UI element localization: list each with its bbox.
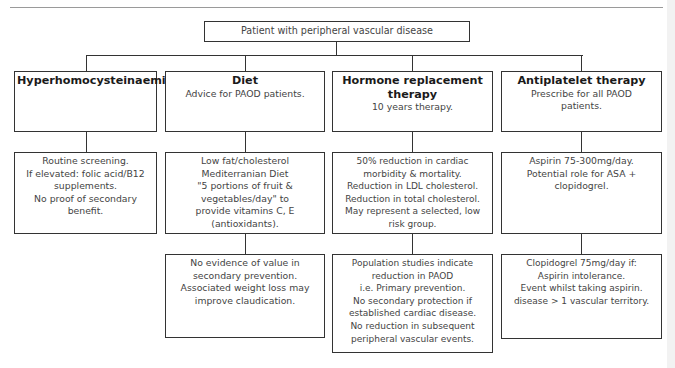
detail-line: If elevated: folic acid/B12 bbox=[17, 168, 154, 181]
detail-line: clopidogrel. bbox=[504, 180, 659, 193]
detail-line: Mediterranian Diet bbox=[168, 168, 322, 181]
header-title: Antiplatelet therapy bbox=[504, 74, 659, 88]
header-antiplatelet-therapy: Antiplatelet therapy Prescribe for all P… bbox=[501, 71, 662, 132]
evidence-line: Associated weight loss may bbox=[168, 282, 322, 295]
detail-hormone-replacement-therapy: 50% reduction in cardiac morbidity & mor… bbox=[332, 152, 493, 234]
evidence-hormone-replacement-therapy: Population studies indicate reduction in… bbox=[332, 254, 493, 353]
top-rule-divider bbox=[10, 7, 663, 8]
header-subtitle: patients. bbox=[504, 100, 659, 113]
header-diet: Diet Advice for PAOD patients. bbox=[165, 71, 325, 132]
header-title-line: therapy bbox=[335, 88, 490, 102]
root-node: Patient with peripheral vascular disease bbox=[204, 21, 470, 42]
connector bbox=[581, 131, 582, 152]
connector bbox=[86, 55, 87, 71]
detail-line: Routine screening. bbox=[17, 155, 154, 168]
detail-line-text: If elevated: folic acid/B12 bbox=[26, 168, 144, 179]
root-label: Patient with peripheral vascular disease bbox=[241, 25, 433, 36]
detail-line: "5 portions of fruit & bbox=[168, 180, 322, 193]
header-title-line: Hormone replacement bbox=[335, 74, 490, 88]
evidence-line: reduction in PAOD bbox=[333, 270, 492, 283]
detail-line: morbidity & mortality. bbox=[333, 168, 492, 181]
connector bbox=[245, 55, 246, 71]
detail-line: May represent a selected, low bbox=[333, 205, 492, 218]
evidence-line: improve claudication. bbox=[168, 295, 322, 308]
evidence-line: i.e. Primary prevention. bbox=[333, 282, 492, 295]
connector bbox=[412, 55, 413, 71]
evidence-line: Clopidogrel 75mg/day if: bbox=[502, 257, 661, 270]
detail-line: No proof of secondary bbox=[17, 193, 154, 206]
header-subtitle: Advice for PAOD patients. bbox=[168, 88, 322, 101]
connector bbox=[412, 131, 413, 152]
connector bbox=[86, 131, 87, 152]
detail-antiplatelet-therapy: Aspirin 75-300mg/day. Potential role for… bbox=[501, 152, 662, 234]
detail-line: Aspirin 75-300mg/day. bbox=[504, 155, 659, 168]
page-edge-strip bbox=[667, 0, 675, 368]
evidence-line: peripheral vascular events. bbox=[333, 333, 492, 346]
evidence-line: secondary prevention. bbox=[168, 270, 322, 283]
detail-line: supplements. bbox=[17, 180, 154, 193]
connector bbox=[336, 42, 337, 55]
detail-line: Reduction in LDL cholesterol. bbox=[333, 180, 492, 193]
connector bbox=[86, 55, 583, 56]
evidence-diet: No evidence of value in secondary preven… bbox=[165, 254, 325, 338]
connector bbox=[245, 234, 246, 254]
header-subtitle: Prescribe for all PAOD bbox=[504, 88, 659, 101]
evidence-antiplatelet-therapy: Clopidogrel 75mg/day if: Aspirin intoler… bbox=[501, 254, 662, 339]
header-hyperhomocysteinaemia: Hyperhomocysteinaemia bbox=[14, 71, 157, 132]
connector bbox=[581, 55, 582, 71]
detail-diet: Low fat/cholesterol Mediterranian Diet "… bbox=[165, 152, 325, 234]
evidence-line: established cardiac disease. bbox=[333, 307, 492, 320]
header-hormone-replacement-therapy: Hormone replacement therapy 10 years the… bbox=[332, 71, 493, 132]
detail-line: risk group. bbox=[333, 218, 492, 231]
evidence-line: disease > 1 vascular territory. bbox=[502, 295, 661, 308]
evidence-line: No secondary protection if bbox=[333, 295, 492, 308]
detail-line: (antioxidants). bbox=[168, 218, 322, 231]
connector bbox=[245, 131, 246, 152]
header-title: Diet bbox=[168, 74, 322, 88]
detail-line: Potential role for ASA + bbox=[504, 168, 659, 181]
detail-line: provide vitamins C, E bbox=[168, 205, 322, 218]
header-subtitle: 10 years therapy. bbox=[335, 101, 490, 114]
detail-line: vegetables/day" to bbox=[168, 193, 322, 206]
detail-line: benefit. bbox=[17, 205, 154, 218]
evidence-line: Aspirin intolerance. bbox=[502, 270, 661, 283]
connector bbox=[412, 234, 413, 254]
evidence-line: No reduction in subsequent bbox=[333, 320, 492, 333]
evidence-line: Population studies indicate bbox=[333, 257, 492, 270]
evidence-line: No evidence of value in bbox=[168, 257, 322, 270]
connector bbox=[581, 234, 582, 254]
detail-hyperhomocysteinaemia: Routine screening. If elevated: folic ac… bbox=[14, 152, 157, 234]
header-title: Hyperhomocysteinaemia bbox=[17, 74, 154, 88]
detail-line: Reduction in total cholesterol. bbox=[333, 193, 492, 206]
evidence-line: Event whilst taking aspirin. bbox=[502, 282, 661, 295]
detail-line: 50% reduction in cardiac bbox=[333, 155, 492, 168]
detail-line: Low fat/cholesterol bbox=[168, 155, 322, 168]
